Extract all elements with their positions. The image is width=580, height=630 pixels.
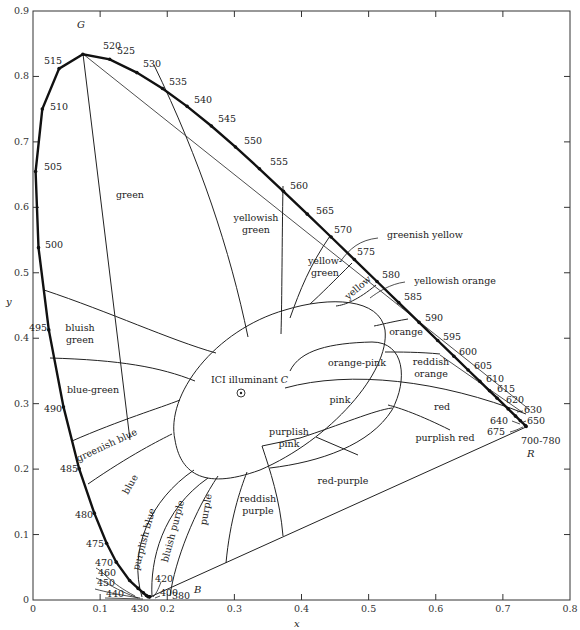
wavelength-label: 640 [490, 415, 508, 426]
y-tick-label: 0.2 [14, 463, 29, 474]
wavelength-label: 595 [443, 331, 461, 342]
y-axis-title: y [5, 296, 12, 307]
illuminant-c-point-icon [237, 389, 245, 397]
x-axis-title: x [294, 618, 300, 629]
wavelength-label: 600 [459, 346, 477, 357]
region-label-green: green [116, 189, 144, 200]
wavelength-label: 525 [117, 45, 135, 56]
wavelength-label: 495 [29, 322, 47, 333]
wavelength-label: 615 [497, 383, 515, 394]
x-tick-label: 0.2 [160, 603, 175, 614]
region-label-blue-green: blue-green [67, 384, 119, 395]
y-tick-label: 0.4 [14, 332, 29, 343]
y-tick-label: 0.6 [14, 201, 29, 212]
x-tick-label: 0 [30, 603, 36, 614]
wavelength-label: 560 [290, 180, 308, 191]
wavelength-label: 575 [357, 246, 375, 257]
region-label-bluish-green: bluishgreen [65, 322, 94, 345]
x-tick-label: 0.1 [93, 603, 108, 614]
wavelength-label: 530 [143, 58, 161, 69]
wavelength-label: 620 [506, 394, 524, 405]
region-label-orange-pink: orange-pink [328, 357, 386, 368]
region-label-reddish-orange: reddishorange [413, 356, 449, 379]
region-label-blue: blue [120, 472, 140, 496]
wavelength-label: 380 [172, 590, 190, 601]
region-label-orange: orange [389, 326, 423, 337]
wavelength-label: 500 [45, 239, 63, 250]
region-label-purplish-red: purplish red [415, 432, 474, 443]
wavelength-label: 420 [155, 573, 173, 584]
y-tick-label: 0.9 [14, 5, 29, 16]
x-tick-label: 0.6 [428, 603, 443, 614]
wavelength-label: 700-780 [521, 435, 560, 446]
wavelength-labels: 5205255305355405455505555605655705755805… [29, 40, 560, 614]
region-label-yellowish-orange: yellowish orange [413, 275, 496, 286]
wavelength-label: 475 [86, 538, 104, 549]
region-label-greenish-blue: greenish blue [74, 426, 139, 464]
x-tick-label: 0.3 [227, 603, 242, 614]
wavelength-label: 510 [50, 101, 68, 112]
y-tick-label: 0.1 [14, 529, 29, 540]
y-tick-label: 0.3 [14, 398, 29, 409]
wavelength-label: 565 [316, 205, 334, 216]
region-label-purplish-blue: purplish blue [130, 507, 157, 572]
region-label-red: red [434, 401, 450, 412]
wavelength-label: 490 [44, 403, 62, 414]
chromaticity-diagram: 00.10.20.30.40.50.60.70.800.10.20.30.40.… [0, 0, 580, 630]
region-label-red-purple: red-purple [318, 475, 369, 486]
wavelength-label: 650 [527, 415, 545, 426]
y-tick-label: 0.7 [14, 136, 29, 147]
wavelength-label: 605 [474, 360, 492, 371]
wavelength-label: 570 [334, 224, 352, 235]
region-label-purple: purple [197, 493, 213, 526]
region-label-greenish-yellow: greenish yellow [387, 229, 463, 240]
y-tick-label: 0.5 [14, 267, 29, 278]
wavelength-label: 430 [131, 603, 149, 614]
region-boundaries [44, 54, 530, 597]
wavelength-label: 555 [270, 156, 288, 167]
wavelength-label: 480 [75, 509, 93, 520]
wavelength-label: 630 [524, 404, 542, 415]
wavelength-label: 675 [487, 426, 505, 437]
region-label-bluish-purple: bluish purple [159, 499, 186, 564]
y-tick-label: 0 [23, 594, 29, 605]
label-leader-arrows [95, 238, 526, 599]
illuminant-label: ICI illuminant C [211, 374, 289, 385]
wavelength-label: 515 [44, 55, 62, 66]
region-label-yellowish-green: yellowishgreen [233, 212, 279, 235]
wavelength-label: 580 [382, 269, 400, 280]
x-tick-label: 0.4 [294, 603, 309, 614]
region-label-yellow-green: yellow-green [307, 255, 342, 278]
wavelength-label: 550 [244, 135, 262, 146]
x-tick-label: 0.5 [361, 603, 376, 614]
region-label-pink: pink [330, 394, 351, 405]
wavelength-label: 540 [194, 94, 212, 105]
wavelength-label: 505 [44, 161, 62, 172]
wavelength-label: 485 [60, 463, 78, 474]
corner-label-b: B [193, 584, 201, 595]
corner-label-r: R [526, 448, 535, 459]
wavelength-label: 590 [425, 312, 443, 323]
y-tick-label: 0.8 [14, 70, 29, 81]
x-tick-label: 0.7 [495, 603, 510, 614]
wavelength-label: 545 [218, 113, 236, 124]
corner-label-g: G [77, 19, 85, 30]
region-label-reddish-purple: reddishpurple [240, 493, 276, 516]
x-tick-label: 0.8 [562, 603, 577, 614]
wavelength-label: 535 [169, 76, 187, 87]
wavelength-label: 585 [404, 291, 422, 302]
